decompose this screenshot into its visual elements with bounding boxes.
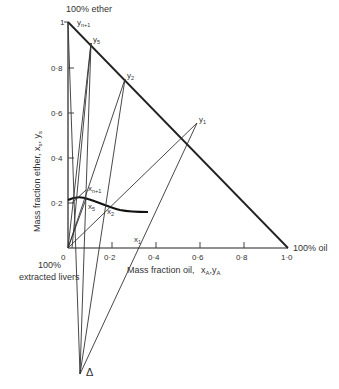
x-axis-label: Mass fraction oil, xA,yA: [127, 265, 221, 276]
svg-text:1·0: 1·0: [281, 253, 293, 262]
point-label-y2: y2: [127, 71, 134, 81]
svg-text:0·6: 0·6: [192, 253, 204, 262]
svg-text:0·4: 0·4: [51, 154, 63, 163]
point-label-x1: x1: [134, 235, 141, 245]
delta-label: Δ: [86, 366, 94, 378]
x-ticks: [112, 242, 244, 248]
svg-text:0·8: 0·8: [236, 253, 248, 262]
point-label-y5: y5: [93, 35, 100, 45]
point-label-x5: x5: [88, 202, 95, 212]
point-label-y-n1: yn+1: [77, 18, 90, 28]
svg-text:1: 1: [60, 18, 65, 27]
right-corner-label: 100% oil: [293, 243, 328, 253]
svg-text:0·8: 0·8: [51, 64, 63, 73]
x-tick-labels: 0 0·2 0·4 0·6 0·8 1·0: [61, 253, 293, 262]
svg-text:0·2: 0·2: [51, 199, 63, 208]
point-label-y1: y1: [199, 115, 206, 125]
point-label-x-n1: xn+1: [88, 184, 101, 194]
svg-text:0·4: 0·4: [148, 253, 160, 262]
hypotenuse-line: [68, 22, 288, 248]
bottom-corner-label-1: 100%: [38, 260, 61, 270]
ponchon-diagram: 100% ether 100% oil 100% extracted liver…: [0, 0, 339, 389]
svg-text:0·2: 0·2: [104, 253, 116, 262]
top-corner-label: 100% ether: [66, 4, 112, 14]
y-axis-label: Mass fraction ether, xs, ys: [32, 131, 43, 232]
bottom-corner-label-2: extracted livers: [19, 272, 80, 282]
svg-text:0: 0: [61, 253, 66, 262]
svg-text:0·6: 0·6: [51, 109, 63, 118]
y-tick-labels: 0·2 0·4 0·6 0·8 1: [51, 18, 65, 208]
